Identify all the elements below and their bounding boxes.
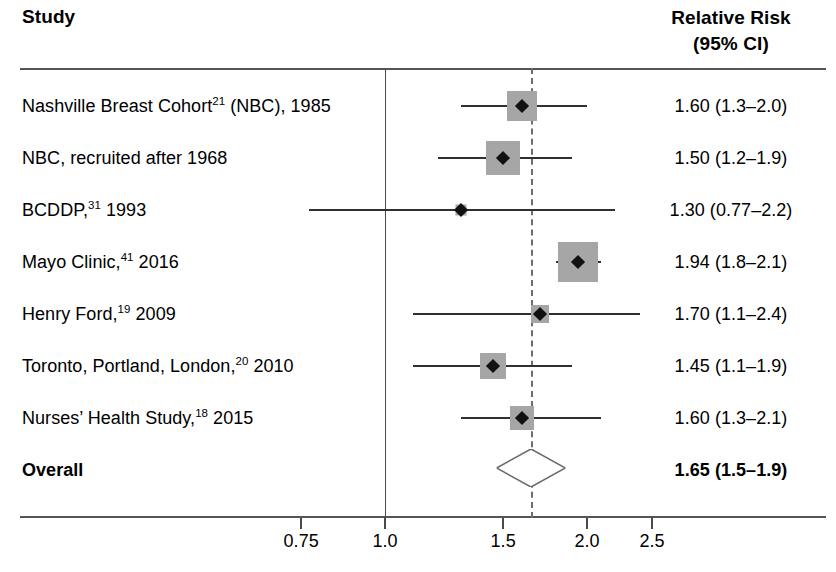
- axis-tick: [651, 518, 653, 529]
- study-row[interactable]: BCDDP,31 19931.30 (0.77–2.2): [0, 184, 836, 236]
- study-value: 1.50 (1.2–1.9): [636, 148, 826, 169]
- confidence-interval-line: [413, 313, 640, 315]
- axis-tick: [586, 518, 588, 529]
- study-label: Toronto, Portland, London,20 2010: [22, 356, 294, 377]
- study-row[interactable]: NBC, recruited after 19681.50 (1.2–1.9): [0, 132, 836, 184]
- study-row[interactable]: Nashville Breast Cohort21 (NBC), 19851.6…: [0, 80, 836, 132]
- study-row[interactable]: Henry Ford,19 20091.70 (1.1–2.4): [0, 288, 836, 340]
- study-row[interactable]: Toronto, Portland, London,20 20101.45 (1…: [0, 340, 836, 392]
- reference-superscript: 19: [118, 303, 131, 315]
- forest-plot-figure: Study Relative Risk (95% CI) Nashville B…: [0, 0, 836, 572]
- reference-superscript: 21: [212, 95, 225, 107]
- study-value: 1.70 (1.1–2.4): [636, 304, 826, 325]
- study-value: 1.60 (1.3–2.0): [636, 96, 826, 117]
- study-label: Mayo Clinic,41 2016: [22, 252, 179, 273]
- study-value: 1.45 (1.1–1.9): [636, 356, 826, 377]
- reference-superscript: 31: [88, 199, 101, 211]
- study-label: NBC, recruited after 1968: [22, 148, 227, 169]
- study-value: 1.30 (0.77–2.2): [636, 200, 826, 221]
- study-row[interactable]: Mayo Clinic,41 20161.94 (1.8–2.1): [0, 236, 836, 288]
- reference-superscript: 18: [195, 407, 208, 419]
- reference-superscript: 41: [121, 251, 134, 263]
- axis-tick: [502, 518, 504, 529]
- study-label: BCDDP,31 1993: [22, 200, 146, 221]
- reference-superscript: 20: [235, 355, 248, 367]
- axis-tick-label: 2.0: [574, 531, 599, 552]
- axis-tick-label: 1.5: [491, 531, 516, 552]
- axis-tick: [300, 518, 302, 529]
- study-label: Nurses’ Health Study,18 2015: [22, 408, 253, 429]
- overall-label: Overall: [22, 460, 83, 481]
- summary-diamond: [497, 449, 566, 491]
- axis-tick-label: 0.75: [284, 531, 319, 552]
- axis-tick: [384, 518, 386, 529]
- study-value: 1.94 (1.8–2.1): [636, 252, 826, 273]
- axis-tick-label: 2.5: [639, 531, 664, 552]
- study-value: 1.60 (1.3–2.1): [636, 408, 826, 429]
- overall-row[interactable]: Overall1.65 (1.5–1.9): [0, 444, 836, 496]
- study-row[interactable]: Nurses’ Health Study,18 20151.60 (1.3–2.…: [0, 392, 836, 444]
- overall-value: 1.65 (1.5–1.9): [636, 460, 826, 481]
- study-label: Henry Ford,19 2009: [22, 304, 176, 325]
- plot-area: Nashville Breast Cohort21 (NBC), 19851.6…: [0, 0, 836, 572]
- study-label: Nashville Breast Cohort21 (NBC), 1985: [22, 96, 331, 117]
- axis-tick-label: 1.0: [372, 531, 397, 552]
